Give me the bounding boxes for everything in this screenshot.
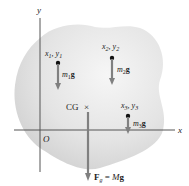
arrowhead-icon: [85, 173, 91, 181]
cg-marker-icon: ×: [84, 102, 89, 112]
cg-label: CG: [66, 102, 79, 112]
rigid-body-shape: [14, 25, 164, 170]
x-axis-label: x: [177, 125, 182, 135]
origin-label: O: [43, 134, 50, 144]
resultant-label: Fg = Mg: [94, 172, 125, 183]
cg-diagram: y x O x1, y1 m1g x2, y2 m2g CG × Fg = Mg…: [0, 0, 189, 186]
y-axis-label: y: [36, 5, 41, 15]
